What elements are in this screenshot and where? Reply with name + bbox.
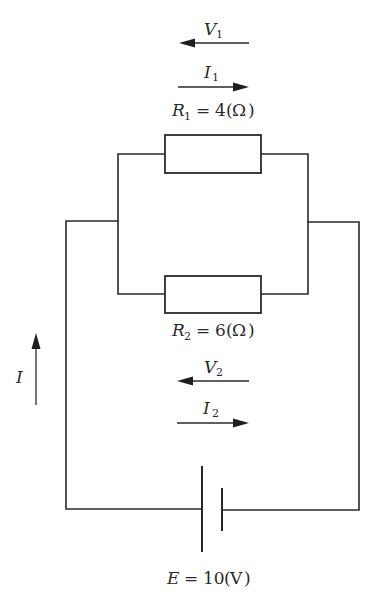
r2-close-paren: ) [248,320,255,340]
e-symbol: E [166,568,180,588]
r2-unit: Ω [232,320,246,340]
r1-label: R 1 = 4 ( Ω ) [171,100,255,123]
r2-equals: = [196,320,210,340]
circuit-diagram: V 1 I 1 R 1 = 4 ( Ω ) R 2 = [0,0,379,603]
i1-arrow: I 1 [178,62,249,92]
r2-label: R 2 = 6 ( Ω ) [171,320,255,343]
v1-subscript: 1 [216,28,223,41]
v2-subscript: 2 [216,366,223,379]
v2-arrow: V 2 [177,357,249,386]
r1-value: 4 [215,100,226,120]
e-unit: V [229,568,243,588]
battery-label: E = 10 ( V ) [166,568,251,588]
e-equals: = [184,568,198,588]
resistor-r1 [165,135,261,173]
r1-equals: = [196,100,210,120]
e-close-paren: ) [244,568,251,588]
e-value: 10 [203,568,225,588]
i2-arrow: I 2 [177,398,249,428]
resistor-r2 [165,276,261,313]
r1-close-paren: ) [248,100,255,120]
battery [202,466,222,552]
i-total-symbol: I [15,367,23,387]
r2-subscript: 2 [184,330,191,343]
r1-subscript: 1 [184,110,191,123]
i1-symbol: I [203,62,211,82]
i1-subscript: 1 [212,71,219,84]
r2-symbol: R [171,320,185,340]
r2-value: 6 [215,320,226,340]
v1-arrow: V 1 [179,19,249,48]
parallel-branch-wires [118,154,308,294]
r1-unit: Ω [232,100,246,120]
i2-subscript: 2 [212,407,219,420]
i-total-arrow: I [15,333,41,405]
i2-symbol: I [202,398,210,418]
r1-symbol: R [171,100,185,120]
